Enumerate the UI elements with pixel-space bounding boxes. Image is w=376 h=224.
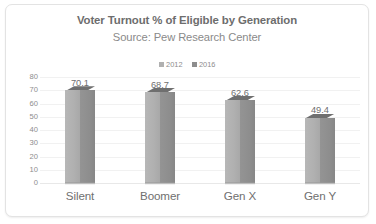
legend-item-2016[interactable]: 2016: [192, 60, 216, 69]
chart-title: Voter Turnout % of Eligible by Generatio…: [6, 14, 368, 26]
bar-side-face: [240, 100, 255, 183]
legend-label-2012: 2012: [166, 60, 182, 69]
x-axis: Silent Boomer Gen X Gen Y: [40, 189, 360, 213]
y-tick-label: 20: [16, 153, 38, 161]
y-tick-label: 0: [16, 179, 38, 187]
legend-swatch-2016: [192, 62, 197, 67]
plot-area: 80 70 60 50 40 30 20 10 0 70.1: [6, 77, 369, 217]
x-label-gen-y: Gen Y: [280, 189, 360, 202]
y-tick-label: 80: [16, 73, 38, 81]
bar-side-face: [320, 118, 335, 184]
bar-front-face: [305, 118, 320, 184]
legend-label-2016: 2016: [199, 60, 215, 69]
y-tick-label: 40: [16, 126, 38, 134]
bar-side-face: [80, 90, 95, 183]
y-tick-label: 10: [16, 166, 38, 174]
bar-base-face: [65, 182, 95, 186]
x-label-silent: Silent: [40, 189, 120, 202]
y-tick-label: 70: [16, 86, 38, 94]
y-tick-label: 30: [16, 139, 38, 147]
bar-side-face: [160, 92, 175, 183]
x-label-gen-x: Gen X: [200, 189, 280, 202]
chart-card: Voter Turnout % of Eligible by Generatio…: [5, 4, 369, 217]
legend-item-2012[interactable]: 2012: [159, 60, 183, 69]
bar-front-face: [65, 90, 80, 183]
y-axis: 80 70 60 50 40 30 20 10 0: [16, 77, 38, 183]
bar-group-silent: 70.1: [40, 77, 120, 183]
legend-swatch-2012: [159, 62, 164, 67]
bar-group-boomer: 68.7: [120, 77, 200, 183]
bars-area: 70.1 68.7 62.6: [40, 77, 360, 183]
bar-group-gen-y: 49.4: [280, 77, 360, 183]
bar-gen-x[interactable]: [225, 100, 255, 183]
chart-legend: 2012 2016: [6, 60, 368, 69]
y-tick-label: 50: [16, 113, 38, 121]
bar-front-face: [225, 100, 240, 183]
bar-gen-y[interactable]: [305, 118, 335, 184]
bar-group-gen-x: 62.6: [200, 77, 280, 183]
x-label-boomer: Boomer: [120, 189, 200, 202]
bar-silent[interactable]: [65, 90, 95, 183]
chart-subtitle: Source: Pew Research Center: [6, 31, 368, 43]
bar-base-face: [305, 182, 335, 186]
bar-base-face: [225, 182, 255, 186]
bar-base-face: [145, 182, 175, 186]
bar-front-face: [145, 92, 160, 183]
y-tick-label: 60: [16, 100, 38, 108]
bar-boomer[interactable]: [145, 92, 175, 183]
